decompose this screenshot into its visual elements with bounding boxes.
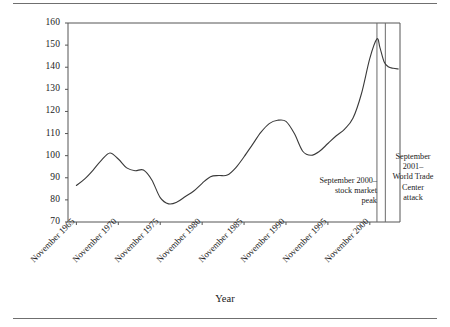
annotation-line: stock market xyxy=(286,186,377,196)
annotation-line: World Trade xyxy=(379,172,447,182)
y-tick-label: 130 xyxy=(34,84,60,94)
annotation-line: Center xyxy=(379,183,447,193)
y-tick-label: 80 xyxy=(34,195,60,205)
figure-container: 708090100110120130140150160 November 196… xyxy=(0,0,450,327)
y-tick-label: 110 xyxy=(34,129,60,139)
y-tick-label: 160 xyxy=(34,18,60,28)
annotation-line: 2001– xyxy=(379,162,447,172)
annotation-line: September xyxy=(379,152,447,162)
x-axis-title: Year xyxy=(0,293,450,304)
y-tick-label: 100 xyxy=(34,151,60,161)
annotation-september-2000-stock-market-peak: September 2000–stock marketpeak xyxy=(286,176,377,207)
annotation-september-2001-world-trade-center-attack: September2001–World TradeCenterattack xyxy=(379,152,447,203)
y-tick-label: 140 xyxy=(34,62,60,72)
annotation-line: September 2000– xyxy=(286,176,377,186)
y-tick-label: 90 xyxy=(34,173,60,183)
annotation-line: peak xyxy=(286,196,377,206)
y-tick-label: 120 xyxy=(34,106,60,116)
annotation-line: attack xyxy=(379,193,447,203)
y-tick-label: 150 xyxy=(34,40,60,50)
y-tick-label: 70 xyxy=(34,217,60,227)
